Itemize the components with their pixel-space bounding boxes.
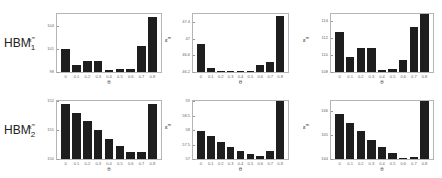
bar [335,114,343,159]
x-axis-label: θ [104,79,114,85]
bar-chart-plot-area [56,13,162,73]
x-axis-label: θ [377,79,387,85]
y-tick-label: 152 [36,99,54,103]
bar [116,69,124,72]
bar [410,157,418,159]
bar [378,70,386,72]
bar [61,49,69,72]
y-tick-label: 47.4 [172,20,190,24]
bar [237,151,245,159]
bar-chart-plot-area [330,100,434,160]
x-tick-label: 0.8 [274,75,286,79]
y-tick-mark [331,55,333,56]
bar [346,57,354,72]
y-axis-label: εm [165,35,171,43]
bar [357,48,365,72]
bar [83,61,91,72]
y-tick-label: 101 [36,47,54,51]
bar [105,70,113,72]
y-tick-mark [193,159,195,160]
bar [72,65,80,72]
bar [94,61,102,72]
bar [137,46,145,72]
y-tick-mark [57,72,59,73]
y-tick-label: 58.5 [172,114,190,118]
row-label-base: HBM [4,36,31,50]
y-axis-label: εm [303,35,309,43]
y-tick-label: 47 [172,37,190,41]
bar [276,101,284,159]
y-tick-mark [57,130,59,131]
x-axis-label: θ [236,166,246,172]
bar [148,104,156,159]
bar [388,153,396,159]
bar [237,71,245,72]
y-axis-label: εm [165,122,171,130]
bar [335,32,343,72]
bar [148,17,156,72]
bar [410,27,418,72]
bar-chart-plot-area [192,13,289,73]
y-axis-label: εm [29,122,35,130]
x-tick-label: 0.8 [419,162,431,166]
y-tick-label: 46.6 [172,53,190,57]
bar [227,71,235,72]
bar [227,147,235,159]
y-tick-mark [57,49,59,50]
bar [217,142,225,159]
bar [266,62,274,72]
bar-chart-plot-area [192,100,289,160]
bar [256,65,264,72]
bar [256,156,264,159]
bar [126,69,134,72]
x-tick-label: 0.8 [419,75,431,79]
bar [217,71,225,72]
x-axis-label: θ [104,166,114,172]
row-label-base: HBM [4,123,31,137]
y-tick-mark [331,38,333,39]
y-tick-mark [331,72,333,73]
bar [378,147,386,159]
bar [207,68,215,72]
bar [116,146,124,159]
bar [137,152,145,159]
y-tick-label: 57.5 [172,143,190,147]
row-label-sub: 1 [31,43,35,52]
y-tick-label: 114 [310,19,328,23]
row-label-sub: 2 [31,130,35,139]
bar [197,44,205,72]
bar [346,123,354,159]
bar [83,121,91,159]
y-tick-label: 151 [36,128,54,132]
y-tick-mark [193,55,195,56]
y-tick-label: 98 [36,70,54,74]
bar [72,113,80,159]
bar [420,14,428,72]
y-tick-label: 58 [172,128,190,132]
y-tick-mark [193,72,195,73]
y-tick-label: 165 [310,133,328,137]
x-tick-label: 0.8 [146,75,158,79]
y-tick-mark [331,159,333,160]
y-tick-mark [193,39,195,40]
bar [420,101,428,159]
y-tick-mark [331,135,333,136]
y-tick-label: 150 [36,157,54,161]
bar [94,130,102,159]
bar [276,16,284,72]
bar [105,139,113,159]
y-tick-label: 59 [172,99,190,103]
y-axis-label: εm [29,35,35,43]
x-tick-label: 0.8 [274,162,286,166]
bar [367,140,375,159]
bar [399,158,407,159]
bar [357,131,365,159]
y-tick-label: 112 [310,36,328,40]
bar [197,131,205,159]
y-tick-mark [331,111,333,112]
y-tick-mark [57,26,59,27]
x-tick-label: 0.8 [146,162,158,166]
bar [247,71,255,72]
y-tick-label: 46.2 [172,70,190,74]
bar [207,136,215,159]
